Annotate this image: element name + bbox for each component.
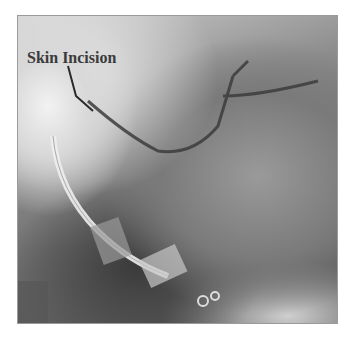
clinical-photograph: Skin Incision bbox=[17, 15, 338, 324]
skin-incision-label: Skin Incision bbox=[27, 49, 116, 67]
leader-line bbox=[68, 66, 93, 111]
